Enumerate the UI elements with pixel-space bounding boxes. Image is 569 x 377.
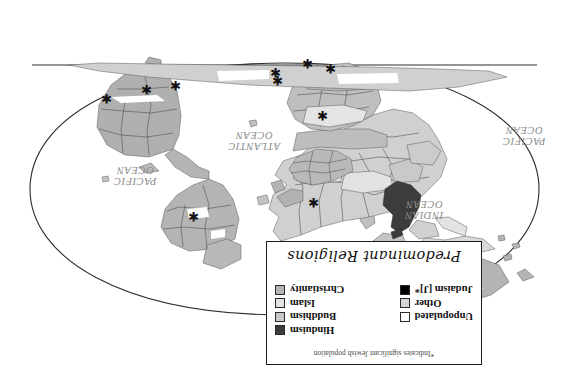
landmass-new-zealand bbox=[517, 269, 534, 281]
jewish-marker: ✱ bbox=[141, 82, 152, 97]
landmass-islet-c bbox=[498, 235, 505, 241]
legend-label-christianity: Christianity bbox=[290, 285, 344, 296]
legend-column-other: Judaism [J]* Other Unpopulated bbox=[400, 285, 473, 337]
region-russia-christianity bbox=[293, 129, 387, 151]
landmass-iceland bbox=[257, 195, 269, 205]
jewish-marker: ✱ bbox=[101, 91, 112, 106]
legend-swatch-judaism bbox=[400, 285, 410, 295]
legend-entry-columns: Christianity Islam Buddhism Hinduism bbox=[275, 285, 473, 337]
legend-swatch-christianity bbox=[275, 285, 285, 295]
legend-entry-islam: Islam bbox=[275, 298, 344, 309]
legend-label-judaism: Judaism [J]* bbox=[415, 285, 473, 296]
jewish-marker: ✱ bbox=[325, 61, 336, 76]
legend-swatch-buddhism bbox=[275, 312, 285, 322]
legend-title: Predominant Religions bbox=[267, 248, 481, 264]
legend-label-buddhism: Buddhism bbox=[290, 312, 336, 323]
legend-entry-christianity: Christianity bbox=[275, 285, 344, 296]
legend-footnote: *Indicates significant Jewish population bbox=[267, 349, 481, 358]
map-legend: *Indicates significant Jewish population… bbox=[266, 241, 482, 365]
legend-label-hinduism: Hinduism bbox=[290, 325, 334, 336]
legend-label-unpopulated: Unpopulated bbox=[415, 312, 473, 323]
jewish-marker: ✱ bbox=[188, 209, 199, 224]
legend-label-other: Other bbox=[415, 298, 442, 309]
jewish-marker: ✱ bbox=[170, 78, 181, 93]
legend-swatch-unpopulated bbox=[400, 312, 410, 322]
legend-swatch-other bbox=[400, 299, 410, 309]
legend-entry-hinduism: Hinduism bbox=[275, 325, 344, 336]
legend-entry-unpopulated: Unpopulated bbox=[400, 312, 473, 323]
legend-entry-buddhism: Buddhism bbox=[275, 312, 344, 323]
jewish-marker: ✱ bbox=[317, 108, 328, 123]
legend-column-religions: Christianity Islam Buddhism Hinduism bbox=[275, 285, 344, 337]
legend-swatch-islam bbox=[275, 299, 285, 309]
landmass-small-island-b bbox=[102, 176, 109, 182]
jewish-marker: ✱ bbox=[302, 56, 313, 71]
jewish-marker: ✱ bbox=[308, 195, 319, 210]
legend-swatch-hinduism bbox=[275, 326, 285, 336]
legend-entry-other: Other bbox=[400, 298, 473, 309]
legend-entry-judaism: Judaism [J]* bbox=[400, 285, 473, 296]
map-figure: ✱ ✱ ✱ ✱ ✱ ✱ ✱ ✱ ✱ ✱ PACIFIC OCEAN INDIAN… bbox=[0, 0, 569, 377]
jewish-marker: ✱ bbox=[270, 65, 281, 80]
landmass-antarctica-inland-b bbox=[337, 73, 399, 84]
legend-label-islam: Islam bbox=[290, 298, 315, 309]
